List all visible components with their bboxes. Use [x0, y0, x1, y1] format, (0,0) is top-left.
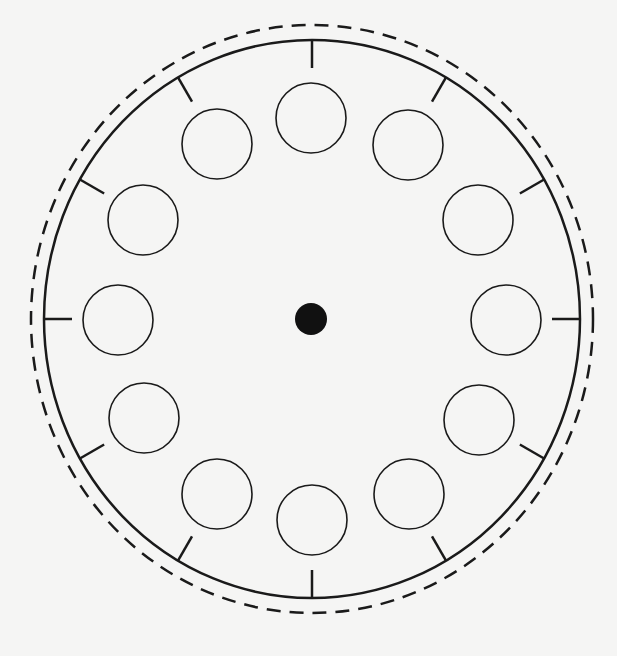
hour-tick-10: [80, 180, 104, 194]
hour-tick-11: [178, 77, 192, 101]
hour-circle-1: [373, 110, 443, 180]
hour-tick-5: [432, 536, 446, 560]
hour-tick-7: [178, 536, 192, 560]
hour-circle-4: [444, 385, 514, 455]
hour-circle-12: [276, 83, 346, 153]
hour-circle-9: [83, 285, 153, 355]
hour-circle-6: [277, 485, 347, 555]
center-dot-circle: [295, 303, 327, 335]
clock-face-diagram: [0, 0, 617, 656]
hour-circle-8: [109, 383, 179, 453]
hour-circle-5: [374, 459, 444, 529]
hour-circle-10: [108, 185, 178, 255]
hour-tick-2: [520, 180, 544, 194]
hour-tick-1: [432, 77, 446, 101]
hour-circle-2: [443, 185, 513, 255]
hour-tick-4: [520, 445, 544, 459]
clock-face-canvas: [0, 0, 617, 656]
hour-tick-8: [80, 445, 104, 459]
hour-circle-11: [182, 109, 252, 179]
center-dot: [295, 303, 327, 335]
hour-circle-7: [182, 459, 252, 529]
hour-circle-3: [471, 285, 541, 355]
